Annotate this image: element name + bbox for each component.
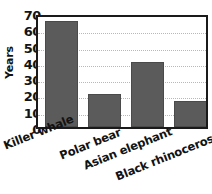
bars-layer <box>38 17 206 127</box>
bar-chart: Years 706050403020100 Killer whalePolar … <box>0 0 212 194</box>
y-axis-title: Years <box>3 37 16 89</box>
bar <box>88 94 121 127</box>
bar <box>174 101 207 127</box>
plot-area <box>36 15 208 129</box>
bar <box>45 21 78 127</box>
bar <box>131 62 164 127</box>
x-axis-tick-labels: Killer whalePolar bearAsian elephantBlac… <box>0 129 212 194</box>
